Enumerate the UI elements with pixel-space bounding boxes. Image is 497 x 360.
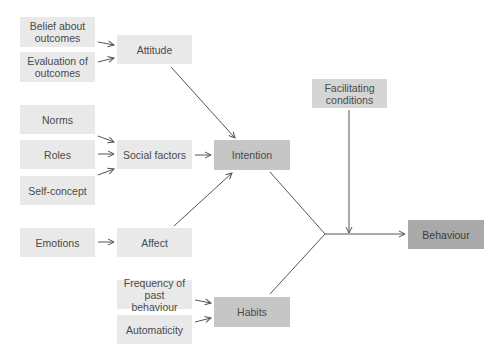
arrow-attitude-to-intention: [171, 67, 235, 138]
arrow-affect-to-intention: [174, 173, 232, 226]
line-habits-to-junction: [270, 234, 325, 294]
node-roles: Roles: [20, 140, 95, 169]
node-label: Social factors: [123, 149, 186, 161]
arrow-selfconcept-to-social: [98, 169, 114, 175]
line-intention-to-junction: [270, 172, 325, 234]
node-facilitating-conditions: Facilitating conditions: [312, 79, 387, 108]
node-evaluation-of-outcomes: Evaluation of outcomes: [20, 52, 95, 82]
arrow-automaticity-to-habits: [195, 318, 211, 322]
arrow-norms-to-social: [98, 136, 114, 142]
node-label: Habits: [237, 306, 267, 318]
node-norms: Norms: [20, 105, 95, 134]
node-label: Intention: [232, 149, 272, 161]
node-label: Affect: [141, 237, 168, 249]
node-label: Attitude: [137, 44, 173, 56]
node-label: Behaviour: [422, 229, 469, 241]
node-belief-about-outcomes: Belief about outcomes: [20, 17, 95, 47]
arrow-evaluation-to-attitude: [98, 58, 114, 62]
node-frequency-of-past-behaviour: Frequency of past behaviour: [117, 280, 192, 309]
arrow-belief-to-attitude: [98, 42, 114, 45]
node-behaviour: Behaviour: [408, 220, 484, 249]
node-intention: Intention: [214, 140, 290, 170]
node-emotions: Emotions: [20, 228, 95, 257]
node-self-concept: Self-concept: [20, 176, 95, 205]
node-label: Evaluation of outcomes: [24, 55, 91, 79]
node-label: Self-concept: [28, 185, 86, 197]
node-affect: Affect: [117, 228, 192, 257]
node-automaticity: Automaticity: [117, 315, 192, 344]
node-habits: Habits: [214, 297, 290, 327]
node-label: Belief about outcomes: [24, 20, 91, 44]
node-attitude: Attitude: [117, 35, 192, 64]
node-label: Automaticity: [126, 324, 183, 336]
node-label: Norms: [42, 114, 73, 126]
arrow-frequency-to-habits: [195, 300, 211, 303]
node-label: Roles: [44, 149, 71, 161]
node-label: Facilitating conditions: [316, 82, 383, 106]
node-social-factors: Social factors: [117, 140, 192, 169]
node-label: Frequency of past behaviour: [121, 277, 188, 313]
node-label: Emotions: [36, 237, 80, 249]
